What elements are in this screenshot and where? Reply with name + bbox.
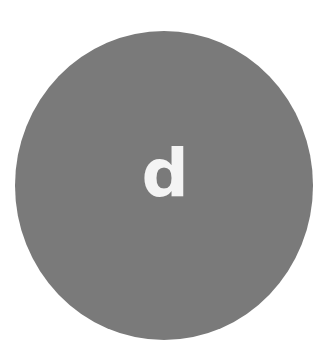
avatar: d: [15, 31, 313, 340]
avatar-initial: d: [141, 141, 188, 207]
avatar-canvas: d: [0, 0, 328, 355]
